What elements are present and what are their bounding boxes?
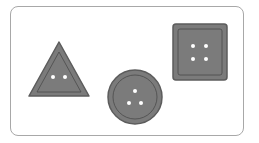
triangle-button [29, 42, 89, 96]
hole-icon [127, 101, 131, 105]
hole-icon [204, 44, 208, 48]
hole-icon [51, 75, 55, 79]
hole-icon [139, 101, 143, 105]
hole-icon [191, 44, 195, 48]
hole-icon [63, 75, 67, 79]
hole-icon [204, 57, 208, 61]
buttons-illustration [0, 0, 259, 143]
hole-icon [191, 57, 195, 61]
square-button [173, 24, 227, 80]
hole-icon [133, 89, 137, 93]
circle-button [108, 70, 162, 124]
